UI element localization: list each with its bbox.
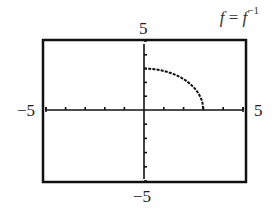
graph-figure: f = f−1 5 −5 −5 5 <box>0 0 277 219</box>
function-curve <box>144 69 203 110</box>
axes <box>46 44 243 179</box>
plot-area <box>0 0 277 219</box>
